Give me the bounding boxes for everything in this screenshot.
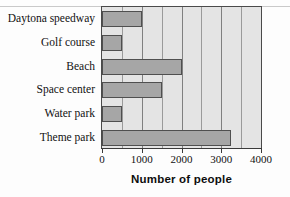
x-tick-label-0: 0 — [99, 153, 105, 165]
bar-water-park — [102, 106, 122, 122]
bar-chart: Daytona speedwayGolf courseBeachSpace ce… — [0, 0, 290, 197]
gridline-500 — [122, 7, 123, 148]
gridline-2500 — [201, 7, 202, 148]
category-label-space-center: Space center — [0, 83, 95, 95]
category-label-beach: Beach — [0, 60, 95, 72]
x-tick-label-2000: 2000 — [171, 153, 193, 165]
category-label-golf-course: Golf course — [0, 36, 95, 48]
bar-daytona-speedway — [102, 11, 142, 27]
gridline-3000 — [221, 7, 222, 148]
plot-area — [101, 6, 262, 149]
gridline-2000 — [182, 7, 183, 148]
bar-golf-course — [102, 35, 122, 51]
category-label-water-park: Water park — [0, 107, 95, 119]
x-axis-title: Number of people — [101, 173, 262, 185]
x-tick-label-1000: 1000 — [131, 153, 153, 165]
x-tick-label-3000: 3000 — [210, 153, 232, 165]
bar-space-center — [102, 82, 162, 98]
bar-theme-park — [102, 130, 231, 146]
gridline-3500 — [241, 7, 242, 148]
gridline-1500 — [162, 7, 163, 148]
category-label-daytona-speedway: Daytona speedway — [0, 12, 95, 24]
category-label-theme-park: Theme park — [0, 131, 95, 143]
gridline-1000 — [142, 7, 143, 148]
x-tick-label-4000: 4000 — [250, 153, 272, 165]
category-axis-labels: Daytona speedwayGolf courseBeachSpace ce… — [0, 6, 98, 149]
bar-beach — [102, 59, 182, 75]
